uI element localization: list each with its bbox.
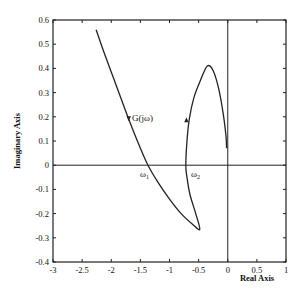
y-axis-title: Imaginary Axis	[12, 112, 22, 169]
y-tick-label: 0.1	[38, 136, 49, 146]
curve-label: G(jω)	[132, 113, 153, 123]
y-tick-label: -0.2	[36, 209, 49, 219]
omega2-label: ω2	[191, 169, 200, 180]
plot-frame	[53, 20, 286, 262]
x-tick-label: 0	[226, 265, 230, 275]
x-axis-title: Real Axis	[240, 273, 275, 283]
x-tick-label: -3	[49, 265, 56, 275]
y-tick-label: 0.2	[38, 112, 49, 122]
y-tick-label: 0.5	[38, 39, 49, 49]
x-tick-label: 1	[284, 265, 288, 275]
axis-ticks: -3-2.5-2-1.5-1-0.500.51-0.4-0.3-0.2-0.10…	[36, 15, 289, 275]
nyquist-plot: -3-2.5-2-1.5-1-0.500.51-0.4-0.3-0.2-0.10…	[0, 0, 302, 293]
x-tick-label: -1	[166, 265, 173, 275]
x-tick-label: -0.5	[192, 265, 205, 275]
y-tick-label: 0.4	[38, 63, 49, 73]
omega1-label: ω1	[140, 169, 149, 180]
y-tick-label: -0.4	[36, 257, 50, 267]
plot-border	[53, 20, 286, 262]
arrow-icon	[184, 117, 188, 122]
arrow-icon	[127, 116, 131, 121]
y-tick-label: 0.3	[38, 88, 49, 98]
nyquist-curve	[96, 30, 226, 230]
y-tick-label: 0.6	[38, 15, 49, 25]
y-tick-label: -0.3	[36, 233, 49, 243]
x-tick-label: -1.5	[134, 265, 147, 275]
x-tick-label: -2	[108, 265, 115, 275]
y-tick-label: -0.1	[36, 184, 49, 194]
x-tick-label: -2.5	[75, 265, 88, 275]
y-tick-label: 0	[45, 160, 49, 170]
reference-lines	[53, 20, 286, 262]
